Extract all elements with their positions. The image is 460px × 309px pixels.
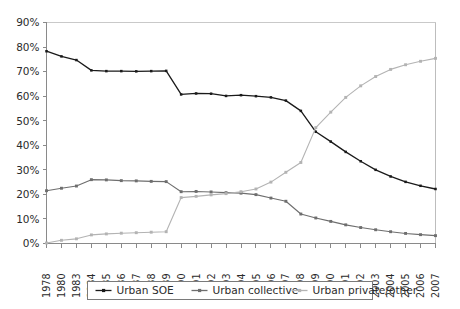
data-point-marker <box>150 70 153 73</box>
y-tick-label: 20% <box>16 188 39 200</box>
data-point-marker <box>45 50 48 53</box>
data-point-marker <box>374 228 377 231</box>
data-point-marker <box>90 69 93 72</box>
y-axis-ticks <box>43 23 47 244</box>
data-point-marker <box>210 193 213 196</box>
data-point-marker <box>240 94 243 97</box>
y-tick-label: 10% <box>16 213 39 225</box>
data-point-marker <box>150 180 153 183</box>
data-point-marker <box>419 185 422 188</box>
data-point-marker <box>210 92 213 95</box>
data-point-marker <box>344 223 347 226</box>
legend-label: Urban SOE <box>117 284 174 296</box>
data-point-marker <box>180 190 183 193</box>
data-point-marker <box>210 190 213 193</box>
series-urban-collective <box>45 178 437 237</box>
gridlines <box>47 23 436 244</box>
data-point-marker <box>299 213 302 216</box>
legend-label: Urban collective <box>213 284 299 296</box>
x-axis-ticks <box>47 244 436 248</box>
axis-lines <box>47 23 436 244</box>
data-point-marker <box>195 92 198 95</box>
data-point-marker <box>60 239 63 242</box>
data-point-marker <box>255 95 258 98</box>
data-point-marker <box>150 231 153 234</box>
data-point-marker <box>285 99 288 102</box>
data-point-marker <box>60 55 63 58</box>
data-point-marker <box>404 63 407 66</box>
y-tick-label: 90% <box>16 16 39 28</box>
series-path <box>47 51 436 189</box>
data-point-marker <box>165 70 168 73</box>
data-point-marker <box>225 192 228 195</box>
data-point-marker <box>314 126 317 129</box>
data-point-marker <box>434 57 437 60</box>
chart-container: 0%10%20%30%40%50%60%70%80%90% 1978198019… <box>0 0 460 309</box>
data-point-marker <box>135 179 138 182</box>
y-tick-label: 70% <box>16 65 39 77</box>
data-point-marker <box>90 233 93 236</box>
y-tick-label: 80% <box>16 41 39 53</box>
legend-marker-swatch <box>198 289 201 292</box>
series-urban-private-other <box>45 57 437 245</box>
data-point-marker <box>434 234 437 237</box>
y-tick-label: 40% <box>16 139 39 151</box>
data-point-marker <box>359 226 362 229</box>
x-tick-label: 1978 <box>41 274 52 298</box>
data-point-marker <box>195 190 198 193</box>
data-point-marker <box>344 96 347 99</box>
x-tick-label: 1983 <box>71 274 82 298</box>
data-point-marker <box>389 230 392 233</box>
data-point-marker <box>180 93 183 96</box>
series-urban-soe <box>45 50 437 190</box>
data-point-marker <box>120 179 123 182</box>
data-point-marker <box>374 75 377 78</box>
data-point-marker <box>240 190 243 193</box>
data-point-marker <box>344 151 347 154</box>
data-point-marker <box>180 196 183 199</box>
data-point-marker <box>404 181 407 184</box>
y-tick-label: 50% <box>16 115 39 127</box>
y-tick-label: 60% <box>16 90 39 102</box>
series-path <box>47 58 436 243</box>
data-point-marker <box>165 230 168 233</box>
data-point-marker <box>255 193 258 196</box>
data-point-marker <box>284 200 287 203</box>
data-point-marker <box>105 178 108 181</box>
data-point-marker <box>359 160 362 163</box>
data-point-marker <box>434 188 437 191</box>
data-point-marker <box>135 70 138 73</box>
data-point-marker <box>314 217 317 220</box>
data-point-marker <box>75 59 78 62</box>
x-tick-label: 1980 <box>56 274 67 298</box>
data-point-marker <box>284 171 287 174</box>
legend-marker-swatch <box>102 289 105 292</box>
data-point-marker <box>404 232 407 235</box>
y-tick-label: 0% <box>23 237 40 249</box>
data-point-marker <box>389 68 392 71</box>
data-point-marker <box>225 95 228 98</box>
x-tick-label: 2007 <box>430 274 441 298</box>
data-point-marker <box>165 180 168 183</box>
data-point-marker <box>105 232 108 235</box>
data-point-marker <box>299 161 302 164</box>
data-point-marker <box>45 189 48 192</box>
y-axis-labels: 0%10%20%30%40%50%60%70%80%90% <box>16 16 39 249</box>
series-path <box>47 180 436 236</box>
chart-legend: Urban SOEUrban collectiveUrban private/o… <box>88 282 418 300</box>
data-point-marker <box>120 70 123 73</box>
data-point-marker <box>270 96 273 99</box>
data-point-marker <box>105 70 108 73</box>
data-series <box>45 50 437 244</box>
data-point-marker <box>90 178 93 181</box>
data-point-marker <box>269 197 272 200</box>
data-point-marker <box>269 181 272 184</box>
data-point-marker <box>135 231 138 234</box>
data-point-marker <box>75 185 78 188</box>
data-point-marker <box>329 111 332 114</box>
y-tick-label: 30% <box>16 164 39 176</box>
data-point-marker <box>195 195 198 198</box>
legend-marker-swatch <box>298 289 301 292</box>
data-point-marker <box>45 242 48 245</box>
data-point-marker <box>330 140 333 143</box>
